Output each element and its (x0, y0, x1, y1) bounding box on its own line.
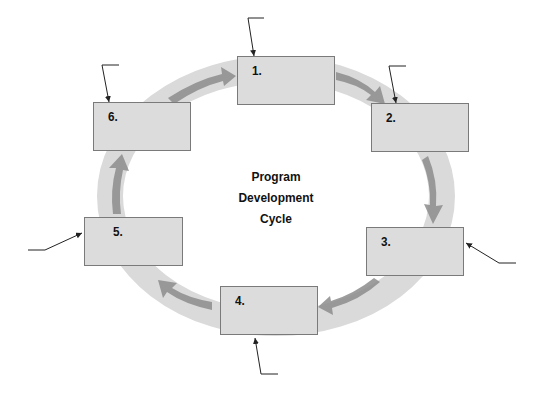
step-box-4[interactable]: 4. (220, 286, 318, 335)
step-box-2[interactable]: 2. (371, 103, 469, 152)
step-number-5: 5. (113, 224, 123, 239)
leader-line-3 (466, 243, 516, 263)
step-box-6[interactable]: 6. (93, 102, 191, 151)
step-number-6: 6. (108, 109, 118, 124)
leader-line-6 (102, 65, 119, 102)
step-number-1: 1. (252, 63, 262, 78)
step-number-2: 2. (386, 110, 396, 125)
title-line-1: Program (212, 166, 341, 187)
step-box-5[interactable]: 5. (84, 217, 183, 266)
leader-line-4 (255, 338, 278, 374)
title-line-3: Cycle (212, 208, 341, 229)
step-number-4: 4. (235, 293, 245, 308)
step-box-1[interactable]: 1. (237, 56, 335, 105)
diagram-title: Program Development Cycle (212, 166, 341, 229)
leader-line-1 (248, 18, 264, 56)
title-line-2: Development (212, 187, 341, 208)
step-box-3[interactable]: 3. (366, 227, 464, 276)
leader-line-5 (28, 233, 82, 250)
step-number-3: 3. (381, 234, 391, 249)
